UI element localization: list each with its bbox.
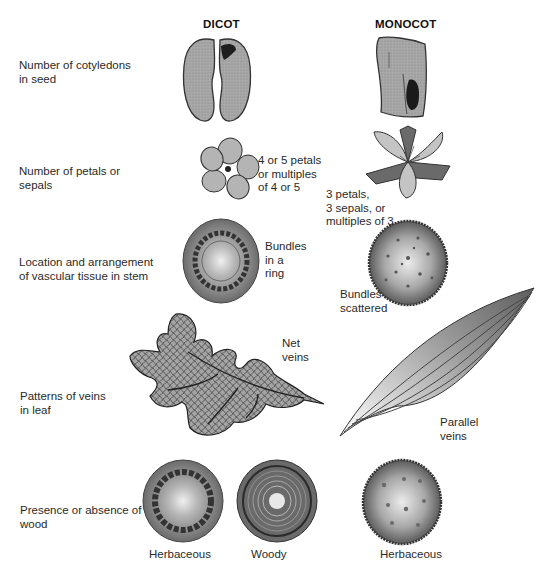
monocot-leaf-note: Parallel veins <box>440 416 478 443</box>
dicot-net-vein-leaf-illustration <box>128 312 328 440</box>
dicot-woody-caption: Woody <box>251 548 287 560</box>
monocot-herbaceous-caption: Herbaceous <box>380 548 442 560</box>
row-label-petals: Number of petals or sepals <box>19 164 120 192</box>
dicot-flower-illustration <box>200 137 258 199</box>
column-header-monocot: MONOCOT <box>375 18 436 30</box>
dicot-stem-note: Bundles in a ring <box>265 240 307 281</box>
row-label-veins: Patterns of veins in leaf <box>20 389 106 417</box>
dicot-herbaceous-stem-illustration <box>142 459 224 543</box>
dicot-petals-note: 4 or 5 petals or multiples of 4 or 5 <box>258 154 321 195</box>
dicot-stem-ring-illustration <box>182 218 260 304</box>
column-header-dicot: DICOT <box>203 18 240 30</box>
dicot-woody-stem-illustration <box>236 459 318 543</box>
row-label-cotyledons: Number of cotyledons in seed <box>19 58 131 86</box>
monocot-seed-illustration <box>375 34 430 120</box>
dicot-seed-illustration <box>180 36 255 124</box>
monocot-parallel-vein-leaf-illustration <box>338 286 536 438</box>
row-label-wood: Presence or absence of wood <box>20 503 141 531</box>
row-label-vascular: Location and arrangement of vascular tis… <box>19 255 153 283</box>
dicot-leaf-note: Net veins <box>282 337 309 364</box>
monocot-herbaceous-stem-illustration <box>362 459 442 545</box>
dicot-herbaceous-caption: Herbaceous <box>149 548 211 560</box>
